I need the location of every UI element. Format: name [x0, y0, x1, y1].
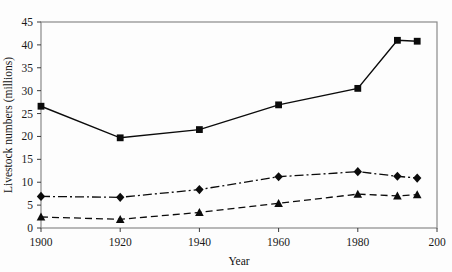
- y-tick-label: 5: [27, 199, 33, 211]
- data-point-square: [414, 38, 421, 45]
- data-point-diamond: [274, 172, 282, 181]
- y-tick-label: 0: [27, 222, 33, 234]
- x-axis-title: Year: [228, 255, 249, 267]
- y-tick-label: 15: [22, 153, 34, 165]
- y-tick-label: 30: [22, 85, 34, 97]
- chart-figure: 051015202530354045 190019201940196019802…: [0, 0, 452, 272]
- data-point-diamond: [195, 185, 203, 194]
- data-point-square: [117, 134, 124, 141]
- series-diamonds-line: [41, 172, 417, 198]
- y-tick-label: 10: [22, 176, 34, 188]
- data-point-diamond: [413, 174, 421, 183]
- x-tick-label: 1940: [188, 236, 211, 248]
- data-point-diamond: [354, 167, 362, 176]
- data-point-diamond: [393, 172, 401, 181]
- data-point-square: [394, 37, 401, 44]
- y-tick-label: 40: [22, 39, 34, 51]
- y-tick-label: 20: [22, 130, 34, 142]
- series-squares: [38, 37, 421, 141]
- x-tick-label: 1900: [30, 236, 53, 248]
- x-axis-ticks: 19001920194019601980200: [30, 228, 446, 248]
- y-tick-label: 45: [22, 16, 34, 28]
- data-point-triangle: [195, 208, 204, 216]
- x-tick-label: 1920: [109, 236, 132, 248]
- data-point-triangle: [274, 199, 283, 207]
- x-tick-label: 1960: [267, 236, 290, 248]
- data-point-diamond: [116, 193, 124, 202]
- data-series-group: [37, 37, 422, 223]
- y-axis-title: Livestock numbers (millions): [2, 57, 15, 193]
- data-point-square: [196, 126, 203, 133]
- y-tick-label: 25: [22, 108, 34, 120]
- series-diamonds: [37, 167, 422, 202]
- x-tick-label: 1980: [346, 236, 369, 248]
- data-point-diamond: [37, 192, 45, 201]
- series-triangles-line: [41, 194, 417, 219]
- data-point-square: [275, 101, 282, 108]
- data-point-square: [38, 103, 45, 110]
- line-chart: 051015202530354045 190019201940196019802…: [0, 0, 452, 272]
- x-tick-label: 200: [428, 236, 446, 248]
- y-axis-ticks: 051015202530354045: [22, 16, 42, 234]
- y-tick-label: 35: [22, 62, 34, 74]
- data-point-square: [354, 85, 361, 92]
- series-triangles: [37, 190, 422, 223]
